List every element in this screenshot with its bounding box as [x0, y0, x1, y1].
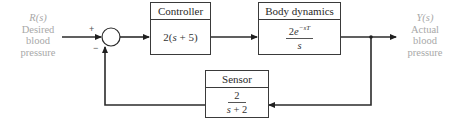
- sensor-denominator: s + 2: [227, 103, 248, 115]
- plant-title: Body dynamics: [259, 3, 340, 20]
- input-line-3: pressure: [14, 47, 62, 59]
- input-line-2: blood: [14, 35, 62, 47]
- input-label: R(s) Desired blood pressure: [14, 12, 62, 58]
- sensor-block: Sensor 2 s + 2: [205, 70, 269, 118]
- controller-transfer-function: 2(s + 5): [151, 20, 210, 54]
- sensor-transfer-function: 2 s + 2: [206, 88, 268, 117]
- sensor-den-rest: + 2: [231, 104, 247, 115]
- plant-fraction: 2e−sT s: [286, 23, 313, 51]
- output-line-3: pressure: [400, 47, 450, 59]
- controller-tf-suffix: + 5): [177, 31, 198, 43]
- controller-block: Controller 2(s + 5): [150, 2, 211, 55]
- controller-tf-prefix: 2(: [163, 31, 172, 43]
- summing-junction-circle: [102, 28, 120, 46]
- controller-title: Controller: [151, 3, 210, 20]
- sensor-title: Sensor: [206, 71, 268, 88]
- plant-num-exp: −sT: [299, 24, 310, 32]
- output-symbol: Y(s): [400, 12, 450, 24]
- feedback-return: [105, 47, 205, 105]
- minus-sign: −: [93, 43, 98, 53]
- plant-denominator: s: [297, 39, 301, 51]
- input-symbol: R(s): [14, 12, 62, 24]
- output-line-1: Actual: [400, 24, 450, 36]
- plant-transfer-function: 2e−sT s: [259, 20, 340, 54]
- branch-point: [369, 35, 373, 39]
- plant-block: Body dynamics 2e−sT s: [258, 2, 341, 55]
- sensor-numerator: 2: [228, 90, 245, 103]
- feedback-control-diagram: + − R(s) Desired blood pressure Y(s) Act…: [0, 0, 457, 129]
- input-line-1: Desired: [14, 24, 62, 36]
- plus-sign: +: [89, 24, 94, 34]
- sensor-fraction: 2 s + 2: [227, 90, 248, 115]
- output-label: Y(s) Actual blood pressure: [400, 12, 450, 58]
- plant-numerator: 2e−sT: [286, 23, 313, 39]
- output-line-2: blood: [400, 35, 450, 47]
